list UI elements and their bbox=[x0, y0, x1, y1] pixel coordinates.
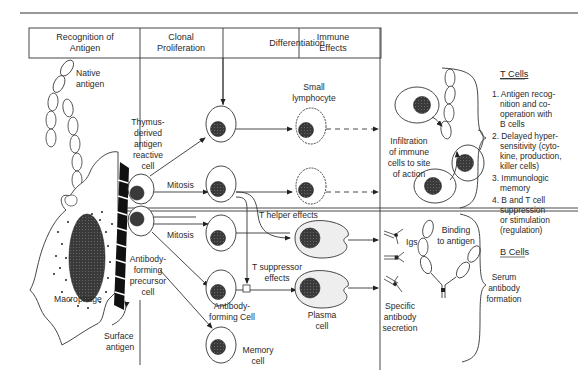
native-antigen-label-1: Native bbox=[76, 68, 101, 78]
binding-label-1: Binding bbox=[442, 225, 471, 235]
t-item-2-line-1: 2. Delayed hyper- bbox=[492, 131, 558, 141]
thymus-cell-label-1: Thymus- bbox=[131, 117, 165, 127]
infiltration-label-2: of immune bbox=[389, 147, 429, 157]
col-header-immune-1: Immune bbox=[317, 32, 350, 42]
infiltration-label-3: cells to site bbox=[388, 158, 431, 168]
t-item-3-line-2: memory bbox=[500, 183, 531, 193]
col-header-clonal-1: Clonal bbox=[168, 32, 194, 42]
antibody-precursor-label-1: Antibody- bbox=[130, 254, 166, 264]
mitosis-bottom-label: Mitosis bbox=[167, 230, 194, 240]
surface-antigen-label-1: Surface bbox=[104, 331, 134, 341]
surface-antigen-label-2: antigen bbox=[106, 342, 134, 352]
mitosis-top-label: Mitosis bbox=[167, 180, 194, 190]
t-item-1-line-3: operation with bbox=[500, 109, 552, 119]
memory-cell-icon bbox=[206, 327, 236, 363]
antibody-precursor-label-3: precursor bbox=[130, 276, 166, 286]
t-item-2-line-3: kine, production, bbox=[500, 151, 561, 161]
antibody-forming-cell-label-1: Antibody- bbox=[214, 301, 250, 311]
small-lymphocyte-label-2: lymphocyte bbox=[292, 93, 336, 103]
t-cells-title: T Cells bbox=[500, 69, 529, 79]
plasma-cell-label-2: cell bbox=[316, 321, 329, 331]
col-header-immune-2: Effects bbox=[319, 43, 347, 53]
clonal-b-cell-1 bbox=[206, 215, 236, 251]
t-item-2-line-4: killer cells) bbox=[500, 161, 539, 171]
memory-cell-label-1: Memory bbox=[242, 345, 274, 355]
t-item-4-line-3: or stimulation bbox=[500, 215, 550, 225]
binding-label-2: to antigen bbox=[437, 236, 475, 246]
plasma-cell-2 bbox=[295, 271, 348, 308]
t-item-4-line-4: (regulation) bbox=[500, 225, 543, 235]
specific-secretion-label-2: antibody bbox=[384, 312, 417, 322]
t-cells-function-list: 1. Antigen recog- nition and co- operati… bbox=[492, 89, 561, 235]
t-item-2-line-2: sensitivity (cyto- bbox=[500, 141, 560, 151]
t-item-1-line-4: B cells bbox=[500, 119, 525, 129]
b-cells-summary-1: Serum bbox=[492, 272, 517, 282]
t-suppressor-path bbox=[236, 197, 247, 283]
t-suppressor-label-1: T suppressor bbox=[252, 262, 302, 272]
antibody-forming-cell-label-2: forming Cell bbox=[209, 312, 255, 322]
t-suppressor-label-2: effects bbox=[264, 273, 289, 283]
suppressor-checkpoint-box bbox=[243, 285, 250, 292]
clonal-t-cell-2 bbox=[206, 166, 236, 202]
infiltration-label-1: Infiltration bbox=[390, 136, 427, 146]
plasma-cell-label-1: Plasma bbox=[308, 310, 337, 320]
b-cells-title: B Cells bbox=[500, 247, 530, 257]
antibody-precursor-cell-icon bbox=[128, 206, 154, 236]
igs-label: Igs bbox=[406, 237, 417, 247]
infiltration-label-4: of action bbox=[393, 169, 426, 179]
col-header-clonal-2: Proliferation bbox=[157, 43, 205, 53]
b-cells-summary-2: antibody bbox=[488, 283, 520, 293]
target-antigen-chain-icon bbox=[440, 69, 457, 140]
small-lymphocyte-2 bbox=[296, 168, 326, 204]
t-item-4-line-2: suppression bbox=[500, 205, 546, 215]
t-helper-label: T helper effects bbox=[259, 210, 318, 220]
native-antigen-label-2: antigen bbox=[76, 79, 104, 89]
t-item-4-line-1: 4. B and T cell bbox=[492, 195, 545, 205]
thymus-cell-label-2: derived bbox=[134, 128, 162, 138]
macrophage-label: Macrophage bbox=[54, 294, 102, 304]
small-lymphocyte-label-1: Small bbox=[303, 82, 325, 92]
thymus-cell-label-3: antigen bbox=[134, 139, 162, 149]
memory-cell-label-2: cell bbox=[252, 356, 265, 366]
antibody-precursor-label-2: forming bbox=[134, 265, 163, 275]
col-header-recognition-1: Recognition of bbox=[56, 32, 114, 42]
immunoglobulin-icons bbox=[384, 229, 404, 292]
immune-response-diagram: Recognition of Antigen Clonal Proliferat… bbox=[0, 0, 578, 385]
t-item-1-line-1: 1. Antigen recog- bbox=[492, 89, 556, 99]
specific-secretion-label-3: secretion bbox=[383, 323, 418, 333]
thymus-cell-label-5: cell bbox=[142, 161, 155, 171]
thymus-derived-cell-icon bbox=[128, 174, 154, 204]
arrow-precursor-to-memory bbox=[160, 270, 212, 328]
plasma-cell-1 bbox=[295, 221, 348, 258]
specific-secretion-label-1: Specific bbox=[385, 301, 416, 311]
col-header-recognition-2: Antigen bbox=[70, 43, 101, 53]
small-lymphocyte-1 bbox=[296, 108, 326, 144]
t-item-3-line-1: 3. Immunologic bbox=[492, 173, 549, 183]
antibody-precursor-label-4: cell bbox=[142, 287, 155, 297]
clonal-t-cell-1 bbox=[206, 106, 236, 142]
t-item-1-line-2: nition and co- bbox=[500, 99, 550, 109]
thymus-cell-label-4: reactive bbox=[133, 150, 163, 160]
b-cells-summary-3: formation bbox=[487, 294, 522, 304]
